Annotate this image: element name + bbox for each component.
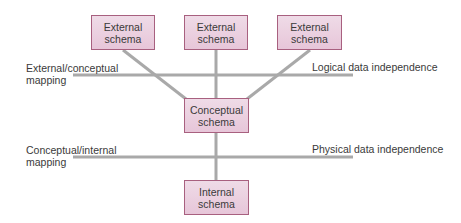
external-schema-1-line1: External [104,21,143,33]
external-conceptual-mapping-label: External/conceptual mapping [26,62,118,86]
external-schema-2-line1: External [197,21,236,33]
conceptual-internal-mapping-line1: Conceptual/internal [26,144,116,156]
external-schema-3-line2: schema [290,33,329,45]
external-conceptual-mapping-line1: External/conceptual [26,62,118,74]
external-schema-box-2: External schema [184,15,248,50]
external-conceptual-mapping-line2: mapping [26,74,118,86]
internal-schema-box: Internal schema [184,180,249,215]
conceptual-internal-mapping-label: Conceptual/internal mapping [26,144,116,168]
external-schema-3-line1: External [290,21,329,33]
external-schema-box-3: External schema [277,15,342,50]
internal-schema-line2: schema [198,198,235,210]
internal-schema-line1: Internal [198,186,235,198]
external-schema-1-line2: schema [104,33,143,45]
conceptual-schema-line2: schema [190,116,243,128]
conceptual-schema-box: Conceptual schema [184,98,249,133]
external-schema-2-line2: schema [197,33,236,45]
physical-data-independence-label: Physical data independence [312,143,443,155]
conceptual-internal-mapping-line2: mapping [26,156,116,168]
conceptual-schema-line1: Conceptual [190,104,243,116]
logical-data-independence-label: Logical data independence [312,61,438,73]
external-schema-box-1: External schema [91,15,155,50]
